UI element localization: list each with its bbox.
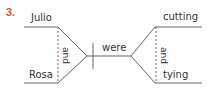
participle-conjunction: and	[159, 47, 169, 64]
participle-cutting: cutting	[163, 11, 198, 22]
verb-fork-top	[131, 27, 155, 56]
subject-conjunction: and	[61, 47, 71, 64]
verb-fork-bottom	[131, 56, 155, 83]
participle-tying: tying	[163, 69, 188, 80]
subject-julio: Julio	[30, 12, 52, 23]
sentence-diagram: 3. Julio Rosa and were cutting tying and	[0, 0, 209, 89]
item-number: 3.	[6, 6, 15, 18]
subject-rosa: Rosa	[29, 69, 53, 80]
verb-were: were	[102, 42, 126, 53]
